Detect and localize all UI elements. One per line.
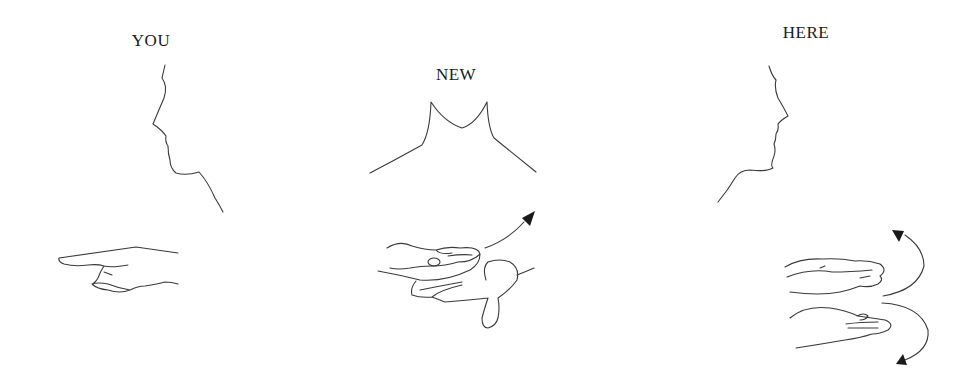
shoulders-outline-icon xyxy=(370,102,536,173)
thumb-tip-icon xyxy=(428,258,440,266)
bottom-hand-icon xyxy=(412,260,535,328)
upper-hand-icon xyxy=(785,259,884,294)
new-sign-figure xyxy=(370,102,536,328)
you-sign-figure xyxy=(59,65,223,292)
motion-arrow-icon xyxy=(485,222,524,248)
top-hand-icon xyxy=(378,243,480,280)
arrow-head-up-icon xyxy=(892,230,904,242)
sign-illustration-panel: YOU NEW HERE xyxy=(0,0,979,387)
face-profile-icon xyxy=(718,66,788,202)
lower-hand-icon xyxy=(790,307,891,348)
face-profile-icon xyxy=(153,65,223,212)
pointing-hand-icon xyxy=(59,247,178,292)
arrow-head-icon xyxy=(522,211,535,226)
motion-arrow-down-icon xyxy=(882,303,928,360)
motion-arrow-up-icon xyxy=(883,235,924,296)
here-sign-figure xyxy=(718,66,928,365)
